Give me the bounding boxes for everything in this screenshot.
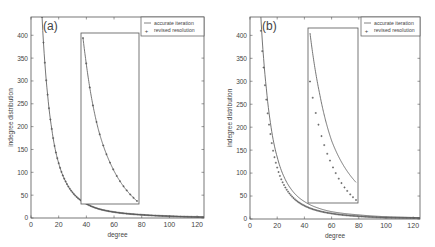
panel-label: (a) bbox=[43, 19, 58, 33]
y-tick-label: 350 bbox=[236, 55, 247, 62]
y-tick-label: 0 bbox=[24, 214, 28, 221]
x-tick-label: 40 bbox=[301, 222, 309, 229]
inset-zoom bbox=[81, 33, 139, 204]
y-axis-label: indegree distribution bbox=[226, 88, 234, 147]
chart-panel-b: 020406080100120050100150200250300350400d… bbox=[226, 17, 421, 240]
y-tick-label: 400 bbox=[17, 32, 28, 39]
y-tick-label: 0 bbox=[243, 215, 247, 222]
x-tick-label: 20 bbox=[273, 222, 281, 229]
x-axis-label: degree bbox=[325, 232, 346, 240]
inset-box bbox=[308, 28, 358, 203]
x-tick-label: 80 bbox=[355, 222, 363, 229]
y-tick-label: 250 bbox=[236, 101, 247, 108]
x-tick-label: 120 bbox=[191, 221, 203, 228]
x-axis-label: degree bbox=[107, 231, 128, 239]
x-tick-label: 0 bbox=[29, 221, 33, 228]
legend-marker-swatch: + bbox=[145, 28, 149, 34]
legend: accurate iteration+revised resolution bbox=[141, 17, 204, 36]
legend-label-accurate-iteration: accurate iteration bbox=[374, 20, 414, 26]
legend: accurate iteration+revised resolution bbox=[361, 17, 420, 36]
x-tick-label: 100 bbox=[380, 222, 392, 229]
inset-box bbox=[81, 33, 139, 204]
x-tick-label: 40 bbox=[82, 221, 90, 228]
legend-label-accurate-iteration: accurate iteration bbox=[154, 20, 194, 26]
x-tick-label: 100 bbox=[164, 221, 176, 228]
y-tick-label: 50 bbox=[21, 192, 29, 199]
panel-label: (b) bbox=[262, 19, 277, 33]
y-tick-label: 300 bbox=[236, 78, 247, 85]
y-tick-label: 300 bbox=[17, 77, 28, 84]
y-tick-label: 100 bbox=[17, 169, 28, 176]
x-tick-label: 20 bbox=[55, 221, 63, 228]
y-tick-label: 350 bbox=[17, 55, 28, 62]
x-tick-label: 60 bbox=[110, 221, 118, 228]
x-tick-label: 0 bbox=[248, 222, 252, 229]
y-tick-label: 200 bbox=[236, 124, 247, 131]
y-tick-label: 400 bbox=[236, 32, 247, 39]
y-axis-label: indegree distribution bbox=[7, 88, 15, 147]
figure: 020406080100120050100150200250300350400d… bbox=[0, 0, 435, 247]
legend-label-revised-resolution: revised resolution bbox=[374, 27, 415, 33]
y-tick-label: 200 bbox=[17, 123, 28, 130]
legend-marker-swatch: + bbox=[365, 28, 369, 34]
inset-zoom bbox=[308, 28, 358, 203]
x-tick-label: 80 bbox=[138, 221, 146, 228]
y-tick-label: 100 bbox=[236, 169, 247, 176]
y-tick-label: 150 bbox=[236, 147, 247, 154]
x-tick-label: 120 bbox=[407, 222, 419, 229]
chart-panel-a: 020406080100120050100150200250300350400d… bbox=[7, 16, 205, 239]
y-tick-label: 150 bbox=[17, 146, 28, 153]
y-tick-label: 50 bbox=[240, 192, 248, 199]
y-tick-label: 250 bbox=[17, 100, 28, 107]
x-tick-label: 60 bbox=[328, 222, 336, 229]
legend-label-revised-resolution: revised resolution bbox=[154, 27, 195, 33]
